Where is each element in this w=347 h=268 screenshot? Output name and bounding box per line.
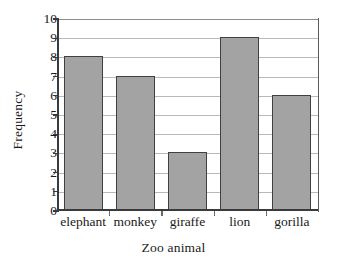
bar — [64, 56, 103, 210]
x-axis-line — [57, 209, 319, 211]
x-tick-label: monkey — [114, 214, 158, 230]
x-axis-title: Zoo animal — [0, 240, 347, 256]
x-axis-labels: elephantmonkeygiraffeliongorilla — [57, 214, 318, 234]
bar-chart-figure: Frequency 012345678910 elephantmonkeygir… — [0, 0, 347, 268]
bar — [272, 95, 311, 210]
y-axis-line — [57, 18, 59, 212]
y-axis-title: Frequency — [8, 60, 28, 180]
y-axis-title-text: Frequency — [10, 91, 26, 150]
gridline — [57, 19, 318, 20]
x-tick-label: gorilla — [274, 214, 309, 230]
bar — [220, 37, 259, 210]
x-tick-label: lion — [229, 214, 250, 230]
plot-right-border — [318, 18, 319, 212]
bar — [168, 152, 207, 210]
x-tick-label: elephant — [60, 214, 106, 230]
y-axis-ticks: 012345678910 — [26, 19, 57, 211]
plot-area: 012345678910 — [57, 19, 318, 211]
x-tick-label: giraffe — [170, 214, 206, 230]
gridline — [57, 38, 318, 39]
bar — [116, 76, 155, 210]
